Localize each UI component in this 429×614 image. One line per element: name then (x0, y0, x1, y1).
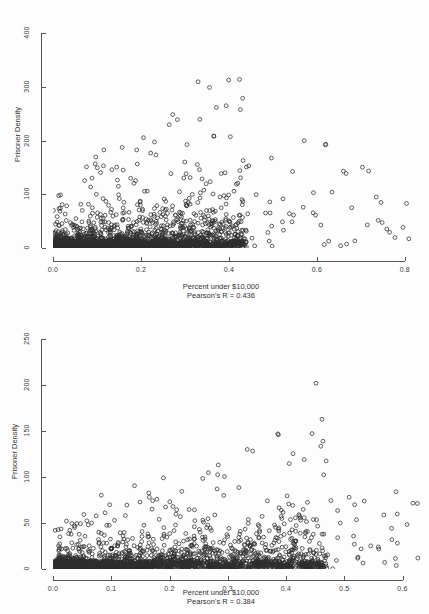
y-axis-tick-label: 100 (23, 465, 30, 487)
x-axis-tick (228, 576, 229, 580)
x-axis-tick-label: 0.0 (48, 585, 58, 592)
y-axis-tick-label: 50 (23, 511, 30, 533)
y-axis-tick-label: 150 (23, 419, 30, 441)
y-axis-tick (42, 87, 46, 88)
y-axis-tick (42, 385, 46, 386)
x-axis-tick (111, 576, 112, 580)
y-axis-tick-label: 400 (23, 22, 30, 44)
scatter-points (53, 12, 418, 248)
y-axis-tick (42, 523, 46, 524)
x-axis-tick-label: 0.5 (339, 585, 349, 592)
x-axis-tick (170, 576, 171, 580)
x-axis-tick-label: 0.6 (397, 585, 407, 592)
x-axis-tick (53, 576, 54, 580)
y-axis-tick-label: 200 (23, 129, 30, 151)
x-axis-tick-label: 0.2 (164, 585, 174, 592)
y-axis-tick (42, 569, 46, 570)
x-axis-tick (141, 257, 142, 261)
x-axis-tick-label: 0.6 (312, 266, 322, 273)
y-axis-tick-label: 300 (23, 76, 30, 98)
x-axis-tick (229, 257, 230, 261)
x-axis-tick (405, 257, 406, 261)
y-axis-tick-label: 200 (23, 373, 30, 395)
pearson-annotation-bottom: Pearson's R = 0.384 (187, 597, 255, 606)
plot-canvas-bottom (53, 325, 420, 569)
x-axis-tick-label: 0.1 (106, 585, 116, 592)
y-axis-tick-label: 0 (23, 558, 30, 580)
x-axis-tick (317, 257, 318, 261)
x-axis-tick-label: 0.4 (224, 266, 234, 273)
y-axis-tick (42, 477, 46, 478)
x-axis-tick (286, 576, 287, 580)
x-axis-tick-label: 0.8 (400, 266, 410, 273)
y-axis-tick-label: 0 (23, 237, 30, 259)
y-axis-title-bottom: Prisoner Density (10, 422, 19, 482)
figure-page: 0.00.20.40.60.80100200300400 Prisoner De… (0, 0, 429, 614)
scatter-points (53, 325, 420, 569)
y-axis-tick (42, 33, 46, 34)
scatter-chart-top: 0.00.20.40.60.80100200300400 Prisoner De… (0, 0, 429, 307)
x-axis-tick (344, 576, 345, 580)
y-axis-tick-label: 250 (23, 327, 30, 349)
x-axis-title-top: Percent under $10,000 (183, 282, 259, 291)
y-axis-line (41, 339, 42, 569)
x-axis-line (53, 580, 403, 581)
x-axis-tick-label: 0.0 (48, 266, 58, 273)
y-axis-tick (42, 194, 46, 195)
y-axis-tick (42, 141, 46, 142)
y-axis-title-top: Prisoner Density (13, 105, 22, 165)
x-axis-title-bottom: Percent under $10,000 (183, 588, 259, 597)
y-axis-tick-label: 100 (23, 183, 30, 205)
x-axis-tick (53, 257, 54, 261)
plot-canvas-top (53, 12, 418, 248)
y-axis-tick (42, 248, 46, 249)
y-axis-tick (42, 339, 46, 340)
scatter-chart-bottom: 0.00.10.20.30.40.50.6050100150200250 Pri… (0, 307, 429, 614)
x-axis-line (53, 261, 405, 262)
pearson-annotation-top: Pearson's R = 0.436 (187, 291, 255, 300)
plot-area-bottom (53, 325, 420, 569)
plot-area-top (53, 12, 418, 248)
y-axis-tick (42, 431, 46, 432)
x-axis-tick-label: 0.4 (281, 585, 291, 592)
x-axis-tick-label: 0.2 (136, 266, 146, 273)
x-axis-tick (403, 576, 404, 580)
